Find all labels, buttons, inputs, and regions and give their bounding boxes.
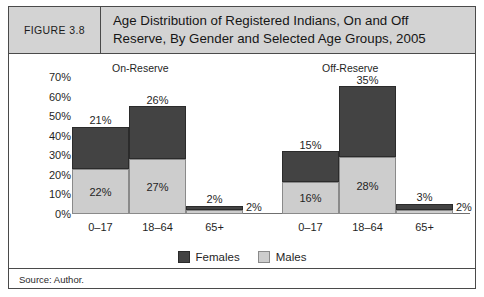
legend-label-males: Males bbox=[276, 251, 307, 263]
chart-area: On-Reserve Off-Reserve 70% 60% 50% 40% 3… bbox=[9, 54, 475, 246]
bar-label-males: 28% bbox=[340, 180, 395, 192]
y-tick-60: 60% bbox=[31, 91, 71, 103]
figure-number-cell: FIGURE 3.8 bbox=[9, 7, 101, 53]
figure-title-line-1: Age Distribution of Registered Indians, … bbox=[113, 12, 465, 30]
bar-label-females: 26% bbox=[129, 94, 186, 106]
source-note: Source: Author. bbox=[19, 274, 84, 285]
chart-legend: Females Males bbox=[9, 246, 475, 268]
bar-label-males-on-reserve-65-plus: 2% bbox=[246, 201, 262, 213]
bar-segment-females bbox=[186, 206, 243, 210]
bar-off-reserve-0-17: 16% 15% bbox=[282, 151, 339, 214]
bar-segment-males bbox=[396, 210, 453, 214]
bar-label-males: 16% bbox=[283, 192, 338, 204]
figure-title-cell: Age Distribution of Registered Indians, … bbox=[101, 7, 475, 53]
y-axis: 70% 60% 50% 40% 30% 20% 10% 0% bbox=[31, 77, 71, 214]
figure-number-label: FIGURE 3.8 bbox=[24, 24, 85, 36]
y-tick-40: 40% bbox=[31, 130, 71, 142]
x-tick-on-reserve-18-64: 18–64 bbox=[129, 221, 186, 233]
bar-on-reserve-18-64: 27% 26% bbox=[129, 106, 186, 214]
bar-segment-females bbox=[72, 127, 129, 170]
bar-segment-males: 27% bbox=[129, 159, 186, 214]
source-divider bbox=[9, 268, 475, 269]
bar-on-reserve-65-plus: 2% bbox=[186, 206, 243, 214]
bar-label-females: 3% bbox=[396, 191, 453, 203]
y-tick-30: 30% bbox=[31, 149, 71, 161]
bar-off-reserve-65-plus: 3% bbox=[396, 204, 453, 214]
legend-swatch-females-icon bbox=[178, 251, 190, 263]
x-tick-on-reserve-0-17: 0–17 bbox=[72, 221, 129, 233]
legend-label-females: Females bbox=[196, 251, 240, 263]
bar-segment-males: 28% bbox=[339, 157, 396, 214]
figure-header: FIGURE 3.8 Age Distribution of Registere… bbox=[9, 7, 475, 54]
bar-label-males: 27% bbox=[130, 181, 185, 193]
bar-label-females: 21% bbox=[72, 114, 129, 126]
x-tick-off-reserve-0-17: 0–17 bbox=[282, 221, 339, 233]
legend-item-males: Males bbox=[258, 251, 307, 263]
bar-segment-females bbox=[396, 204, 453, 210]
figure-container: FIGURE 3.8 Age Distribution of Registere… bbox=[8, 6, 476, 289]
bar-off-reserve-18-64: 28% 35% bbox=[339, 86, 396, 214]
legend-swatch-males-icon bbox=[258, 251, 270, 263]
y-tick-70: 70% bbox=[31, 71, 71, 83]
bar-label-females: 2% bbox=[186, 193, 243, 205]
y-tick-50: 50% bbox=[31, 110, 71, 122]
bar-on-reserve-0-17: 22% 21% bbox=[72, 127, 129, 214]
bar-segment-females bbox=[282, 151, 339, 182]
bar-segment-males: 16% bbox=[282, 182, 339, 215]
y-tick-10: 10% bbox=[31, 188, 71, 200]
plot-area: 22% 21% 27% 26% 2% 2% bbox=[72, 72, 469, 214]
bar-label-males-off-reserve-65-plus: 2% bbox=[456, 201, 472, 213]
y-tick-20: 20% bbox=[31, 169, 71, 181]
bar-label-females: 35% bbox=[339, 74, 396, 86]
x-tick-on-reserve-65-plus: 65+ bbox=[186, 221, 243, 233]
bar-segment-females bbox=[339, 86, 396, 157]
x-tick-off-reserve-65-plus: 65+ bbox=[396, 221, 453, 233]
y-tick-0: 0% bbox=[31, 208, 71, 220]
bar-segment-females bbox=[129, 106, 186, 159]
bar-label-females: 15% bbox=[282, 139, 339, 151]
legend-item-females: Females bbox=[178, 251, 240, 263]
bar-segment-males: 22% bbox=[72, 169, 129, 214]
figure-title-line-2: Reserve, By Gender and Selected Age Grou… bbox=[113, 30, 465, 48]
bar-segment-males bbox=[186, 210, 243, 214]
bar-label-males: 22% bbox=[73, 186, 128, 198]
x-tick-off-reserve-18-64: 18–64 bbox=[339, 221, 396, 233]
